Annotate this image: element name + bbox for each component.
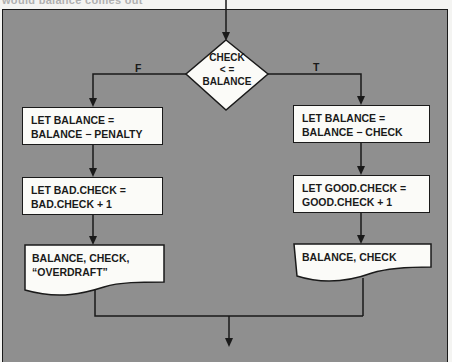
false-process-bad-check: LET BAD.CHECK = BAD.CHECK + 1 — [22, 177, 163, 215]
condition-operator: < = — [190, 64, 264, 76]
true-label: T — [313, 61, 319, 73]
statement-line: GOOD.CHECK + 1 — [302, 196, 429, 210]
statement-line: LET BAD.CHECK = — [31, 184, 162, 198]
output-line: BALANCE, CHECK, — [32, 252, 129, 266]
output-line: BALANCE, CHECK — [302, 251, 397, 265]
statement-line: LET GOOD.CHECK = — [302, 182, 429, 196]
false-label: F — [135, 62, 141, 74]
decision-condition: CHECK < = BALANCE — [190, 52, 264, 88]
statement-line: BAD.CHECK + 1 — [31, 198, 162, 212]
statement-line: BALANCE − CHECK — [302, 126, 429, 140]
statement-line: BALANCE − PENALTY — [31, 128, 162, 142]
statement-line: LET BALANCE = — [302, 112, 429, 126]
false-process-balance-penalty: LET BALANCE = BALANCE − PENALTY — [22, 107, 163, 145]
true-output-text: BALANCE, CHECK — [302, 251, 397, 265]
condition-line: CHECK — [190, 52, 264, 64]
false-output-text: BALANCE, CHECK, “OVERDRAFT” — [32, 252, 129, 279]
output-line: “OVERDRAFT” — [32, 266, 129, 280]
true-process-good-check: LET GOOD.CHECK = GOOD.CHECK + 1 — [293, 175, 430, 213]
true-process-balance-check: LET BALANCE = BALANCE − CHECK — [293, 105, 430, 143]
condition-line: BALANCE — [190, 76, 264, 88]
statement-line: LET BALANCE = — [31, 114, 162, 128]
